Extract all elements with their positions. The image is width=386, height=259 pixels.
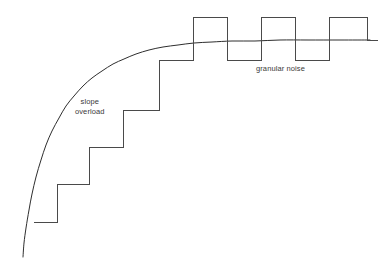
analog-input-curve <box>23 40 370 257</box>
slope-overload-label-line1: slope <box>75 97 105 107</box>
delta-modulation-figure: slope overload granular noise <box>0 0 386 259</box>
granular-noise-label: granular noise <box>256 64 305 74</box>
delta-modulator-staircase <box>34 17 378 222</box>
waveform-canvas <box>0 0 386 259</box>
slope-overload-label-line2: overload <box>75 107 105 117</box>
slope-overload-label: slope overload <box>75 97 105 116</box>
